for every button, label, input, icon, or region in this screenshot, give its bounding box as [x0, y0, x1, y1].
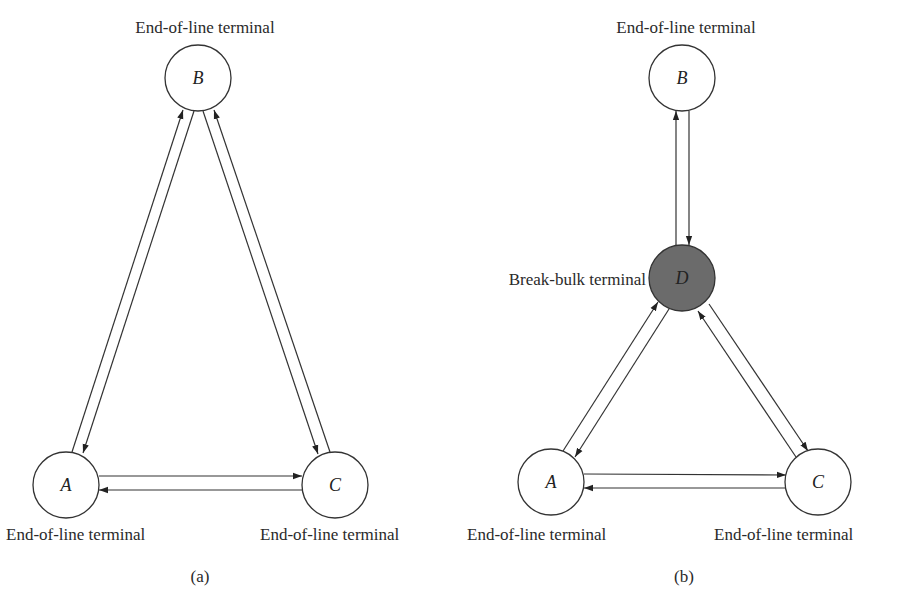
edge-c-to-b	[214, 110, 330, 452]
node-a-end-of-line: A	[518, 449, 584, 515]
label-d: Break-bulk terminal	[509, 270, 647, 289]
node-c-end-of-line: C	[302, 452, 368, 518]
diagram-a: B A C End-of-line terminal End-of-line t…	[6, 18, 400, 586]
node-id: B	[677, 68, 688, 88]
terminal-network-diagrams: B A C End-of-line terminal End-of-line t…	[0, 0, 921, 610]
edge-d-to-c	[709, 304, 808, 451]
edge-a-to-d	[563, 302, 658, 451]
edge-c-to-d	[698, 311, 796, 457]
edge-b-to-a	[83, 111, 194, 453]
node-id: C	[329, 475, 342, 495]
caption-a: (a)	[191, 567, 210, 586]
node-id: B	[193, 68, 204, 88]
diagram-b: B D A C End-of-line terminal Break-bulk …	[467, 18, 854, 586]
node-id: A	[545, 472, 558, 492]
edge-b-to-c	[203, 111, 318, 454]
caption-b: (b)	[674, 567, 694, 586]
node-c-end-of-line: C	[785, 449, 851, 515]
node-id: C	[812, 472, 825, 492]
label-a: End-of-line terminal	[467, 525, 607, 544]
node-a-end-of-line: A	[33, 452, 99, 518]
label-c: End-of-line terminal	[714, 525, 854, 544]
label-b: End-of-line terminal	[616, 18, 756, 37]
label-c: End-of-line terminal	[260, 525, 400, 544]
label-a: End-of-line terminal	[6, 525, 146, 544]
edge-a-to-c-b	[584, 474, 786, 475]
node-d-break-bulk: D	[649, 245, 715, 311]
edge-a-to-b	[72, 110, 183, 452]
node-b-end-of-line: B	[649, 45, 715, 111]
edge-d-to-a	[575, 309, 669, 457]
label-b: End-of-line terminal	[135, 18, 275, 37]
node-id: A	[60, 475, 73, 495]
node-b-end-of-line: B	[165, 45, 231, 111]
node-id: D	[675, 268, 689, 288]
